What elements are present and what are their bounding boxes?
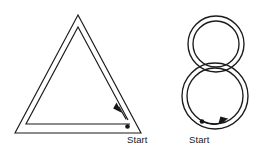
eight-bottom-inner-ring — [187, 68, 243, 124]
eight-top-inner-ring — [193, 21, 239, 67]
eight-start-dot — [200, 119, 205, 124]
eight-bottom-outer-ring — [182, 63, 248, 129]
figure-eight-start-label: Start — [189, 134, 210, 145]
triangle-start-label: Start — [127, 134, 148, 145]
triangle-inner-outline — [26, 27, 130, 124]
figure-svg — [0, 0, 269, 151]
triangle-arrow-head — [113, 103, 122, 113]
triangle-outer-outline — [15, 15, 141, 133]
figure-eight-shape — [182, 16, 248, 129]
eight-direction-arrow — [203, 116, 229, 124]
diagram-canvas: Start Start — [0, 0, 269, 151]
triangle-shape — [15, 15, 141, 133]
triangle-start-dot — [125, 124, 130, 129]
